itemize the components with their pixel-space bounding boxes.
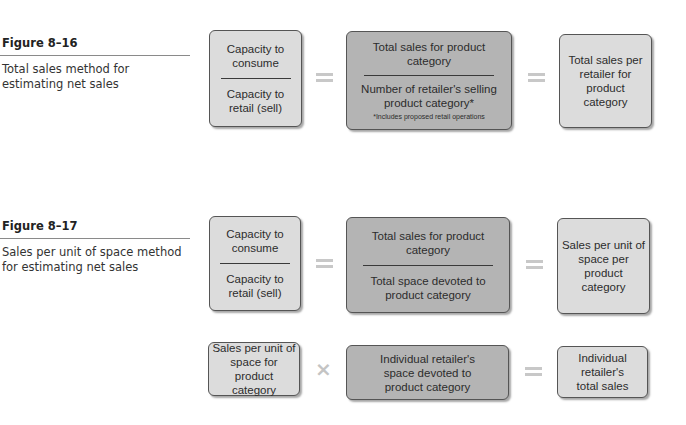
- result-text: Individual retailer's total sales: [572, 351, 633, 393]
- multiply-icon: ×: [315, 359, 332, 379]
- total-sales-ratio-box: Total sales for product category Number …: [346, 31, 512, 130]
- denominator: Number of retailer's selling product cat…: [350, 82, 508, 110]
- equals-icon: [525, 366, 542, 378]
- capacity-ratio-box: Capacity to consume Capacity to retail (…: [209, 216, 301, 311]
- numerator: Total sales for product category: [355, 40, 503, 68]
- result-box: Total sales per retailer for product cat…: [559, 34, 652, 128]
- figure-number: Figure 8–16: [0, 36, 190, 56]
- equals-icon: [526, 259, 543, 271]
- result-text: Sales per unit of space per product cate…: [561, 238, 646, 294]
- footnote: *Includes proposed retail operations: [373, 112, 485, 121]
- fraction-line: [364, 75, 494, 76]
- fraction-line: [221, 78, 291, 79]
- figure-number: Figure 8–17: [0, 219, 190, 239]
- result-text: Total sales per retailer for product cat…: [564, 53, 647, 109]
- numerator: Capacity to consume: [210, 227, 300, 255]
- total-sales-space-ratio-box: Total sales for product category Total s…: [346, 217, 510, 313]
- fraction-line: [220, 263, 290, 264]
- box-text: Individual retailer's space devoted to p…: [367, 352, 488, 394]
- numerator: Total sales for product category: [354, 229, 502, 257]
- denominator: Capacity to retail (sell): [210, 272, 300, 300]
- figure-8-17-label: Figure 8–17 Sales per unit of space meth…: [0, 219, 190, 275]
- numerator: Capacity to consume: [210, 42, 301, 70]
- equals-icon: [528, 72, 545, 84]
- denominator: Capacity to retail (sell): [210, 87, 301, 115]
- sales-per-unit-box: Sales per unit of space for product cate…: [208, 342, 300, 396]
- denominator: Total space devoted to product category: [349, 274, 507, 302]
- equals-icon: [316, 72, 333, 84]
- equals-icon: [316, 258, 333, 270]
- fraction-line: [363, 265, 493, 266]
- figure-8-16-label: Figure 8–16 Total sales method for estim…: [0, 36, 190, 92]
- capacity-ratio-box: Capacity to consume Capacity to retail (…: [209, 30, 302, 127]
- retailer-space-box: Individual retailer's space devoted to p…: [346, 345, 509, 400]
- figure-caption: Total sales method for estimating net sa…: [0, 56, 190, 92]
- figure-caption: Sales per unit of space method for estim…: [0, 239, 182, 275]
- result-box: Individual retailer's total sales: [557, 346, 648, 398]
- box-text: Sales per unit of space for product cate…: [212, 341, 296, 397]
- result-box: Sales per unit of space per product cate…: [557, 218, 650, 314]
